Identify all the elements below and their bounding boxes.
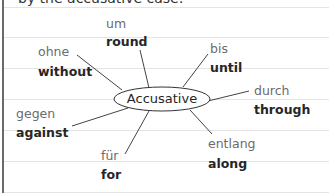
german-durch: durch [254, 83, 290, 98]
notebook-page: by the accusative case: Accusative um ro… [0, 0, 329, 193]
center-node-accusative: Accusative [114, 88, 210, 110]
english-against: against [16, 125, 68, 140]
english-round: round [106, 34, 148, 49]
english-without: without [38, 64, 92, 79]
german-gegen: gegen [16, 106, 55, 121]
german-ohne: ohne [38, 44, 69, 59]
german-um: um [106, 16, 126, 31]
english-for: for [101, 167, 121, 182]
english-until: until [210, 60, 242, 75]
german-bis: bis [210, 41, 228, 56]
english-through: through [254, 102, 310, 117]
german-fuer: für [101, 148, 118, 163]
english-along: along [208, 156, 247, 171]
german-entlang: entlang [208, 136, 256, 151]
